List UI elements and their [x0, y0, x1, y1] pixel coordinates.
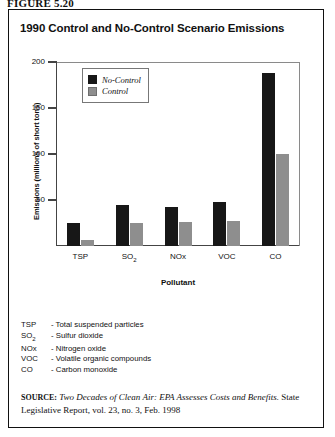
x-tick-label-co: CO: [252, 252, 300, 261]
note-definition: - Sulfur dioxide: [51, 331, 103, 344]
chart-legend: No-Control Control: [82, 68, 149, 103]
note-definition: - Nitrogen oxide: [51, 344, 106, 355]
note-row: CO- Carbon monoxide: [21, 365, 151, 376]
figure-label: FIGURE 5.20: [7, 0, 74, 9]
bar-nox-control: [179, 222, 192, 246]
plot-area: Emissions (millions of short tons) 20015…: [20, 52, 310, 267]
chart-title: 1990 Control and No-Control Scenario Emi…: [20, 22, 284, 34]
x-tick-label-nox: NOx: [154, 252, 202, 261]
legend-label-control: Control: [102, 86, 128, 96]
source-kicker: SOURCE:: [21, 393, 57, 402]
note-row: SO2- Sulfur dioxide: [21, 331, 151, 344]
bar-co-control: [276, 154, 289, 246]
note-definition: - Total suspended particles: [51, 320, 144, 331]
note-abbreviation: CO: [21, 365, 51, 376]
source-title: Two Decades of Clean Air: EPA Assesses C…: [59, 392, 279, 402]
note-row: NOx- Nitrogen oxide: [21, 344, 151, 355]
note-abbreviation: NOx: [21, 344, 51, 355]
legend-item-control: Control: [88, 86, 141, 96]
y-tick-mark: [48, 61, 57, 62]
bar-tsp-control: [81, 240, 94, 246]
source-citation: SOURCE: Two Decades of Clean Air: EPA As…: [21, 391, 321, 416]
plot-axes-top-spine: [56, 62, 300, 63]
y-tick-mark: [48, 199, 57, 200]
bar-nox-no-control: [165, 207, 178, 246]
note-abbreviation: VOC: [21, 354, 51, 365]
x-tick-label-so2: SO2: [105, 252, 153, 263]
bar-tsp-no-control: [67, 223, 80, 246]
y-tick-label: 150: [20, 103, 45, 112]
y-tick-mark: [48, 107, 57, 108]
y-tick-mark: [48, 153, 57, 154]
plot-axes-right-spine: [299, 62, 300, 246]
legend-swatch-no-control-icon: [88, 75, 97, 84]
x-axis-label: Pollutant: [56, 278, 300, 287]
bar-voc-control: [227, 221, 240, 246]
legend-swatch-control-icon: [88, 87, 97, 96]
y-tick-label: 200: [20, 57, 45, 66]
abbreviation-notes: TSP- Total suspended particlesSO2- Sulfu…: [21, 320, 151, 376]
x-tick-label-tsp: TSP: [56, 252, 104, 261]
bar-so2-no-control: [116, 205, 129, 246]
legend-item-no-control: No-Control: [88, 75, 141, 85]
y-tick-label: 50: [20, 195, 45, 204]
bar-voc-no-control: [213, 202, 226, 246]
note-abbreviation: SO2: [21, 331, 51, 344]
note-abbreviation: TSP: [21, 320, 51, 331]
bar-co-no-control: [262, 73, 275, 246]
note-row: VOC- Volatile organic compounds: [21, 354, 151, 365]
note-row: TSP- Total suspended particles: [21, 320, 151, 331]
figure-container: FIGURE 5.20 1990 Control and No-Control …: [0, 0, 335, 437]
y-tick-label: 100: [20, 149, 45, 158]
x-tick-label-voc: VOC: [203, 252, 251, 261]
legend-label-no-control: No-Control: [102, 75, 141, 85]
note-definition: - Carbon monoxide: [51, 365, 117, 376]
bar-so2-control: [130, 223, 143, 246]
note-definition: - Volatile organic compounds: [51, 354, 151, 365]
